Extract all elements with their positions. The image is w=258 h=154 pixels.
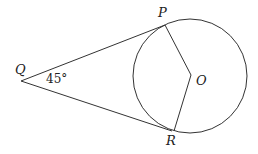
tangent-circle-diagram: P Q O R 45°	[0, 0, 258, 154]
label-o: O	[196, 74, 207, 87]
label-r: R	[166, 134, 176, 147]
tangent-line-qr	[21, 81, 172, 131]
diagram-svg	[0, 0, 258, 154]
label-q: Q	[15, 63, 26, 76]
radius-or	[174, 75, 191, 131]
angle-label: 45°	[46, 73, 67, 85]
circle	[133, 19, 247, 133]
tangent-line-qp	[21, 25, 165, 81]
radius-op	[165, 25, 191, 75]
label-p: P	[158, 6, 167, 19]
